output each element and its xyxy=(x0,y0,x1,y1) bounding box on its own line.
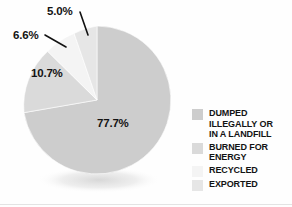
legend-label-line-1: EXPORTED xyxy=(209,179,258,189)
legend-label-line-2: ENERGY xyxy=(209,152,246,162)
legend-label-line-2: ILLEGALLY OR xyxy=(209,119,273,129)
chart-plot-area: 77.7% 10.7% 6.6% 5.0% xyxy=(0,0,190,207)
bottom-divider xyxy=(0,204,292,205)
legend-swatch-icon xyxy=(192,166,203,177)
legend-item-exported[interactable]: EXPORTED xyxy=(192,179,292,191)
pie-chart-figure: 77.7% 10.7% 6.6% 5.0% DUMPED ILLEGALLY O… xyxy=(0,0,292,207)
legend-item-label: BURNED FOR ENERGY xyxy=(209,142,268,163)
slice-value-label-exported: 5.0% xyxy=(47,5,72,17)
legend-label-line-1: RECYCLED xyxy=(209,165,258,175)
legend-item-label: DUMPED ILLEGALLY OR IN A LANDFILL xyxy=(209,108,273,140)
legend-swatch-icon xyxy=(192,180,203,191)
slice-value-label-burned: 10.7% xyxy=(31,67,63,79)
legend-swatch-icon xyxy=(192,109,203,120)
legend-item-dumped-illegally-or-in-a-landfill[interactable]: DUMPED ILLEGALLY OR IN A LANDFILL xyxy=(192,108,292,140)
legend-label-line-3: IN A LANDFILL xyxy=(209,129,272,139)
chart-legend: DUMPED ILLEGALLY OR IN A LANDFILL BURNED… xyxy=(192,108,292,193)
legend-item-label: EXPORTED xyxy=(209,179,258,190)
legend-item-burned-for-energy[interactable]: BURNED FOR ENERGY xyxy=(192,142,292,163)
legend-swatch-icon xyxy=(192,143,203,154)
legend-label-line-1: DUMPED xyxy=(209,108,247,118)
slice-value-label-dumped: 77.7% xyxy=(97,117,129,129)
legend-label-line-1: BURNED FOR xyxy=(209,142,268,152)
legend-item-recycled[interactable]: RECYCLED xyxy=(192,165,292,177)
slice-value-label-recycled: 6.6% xyxy=(13,29,38,41)
legend-item-label: RECYCLED xyxy=(209,165,258,176)
